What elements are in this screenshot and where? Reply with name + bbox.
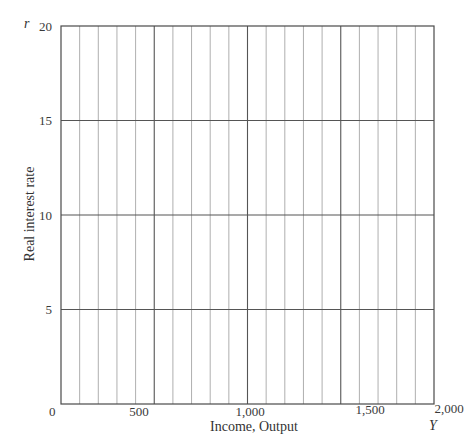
y-axis-title: Real interest rate: [22, 154, 38, 274]
x-variable-label: Y: [429, 418, 437, 434]
x-tick-0: 0: [49, 404, 56, 420]
y-tick-5: 5: [22, 302, 52, 318]
x-axis-title: Income, Output: [210, 419, 298, 435]
y-tick-20: 20: [22, 19, 52, 35]
y-tick-15: 15: [22, 113, 52, 129]
x-tick-1000: 1,000: [235, 404, 264, 420]
x-tick-500: 500: [129, 404, 149, 420]
chart-plot-area: [0, 0, 468, 444]
x-tick-2000: 2,000: [434, 401, 463, 417]
x-tick-1500: 1,500: [355, 402, 384, 418]
